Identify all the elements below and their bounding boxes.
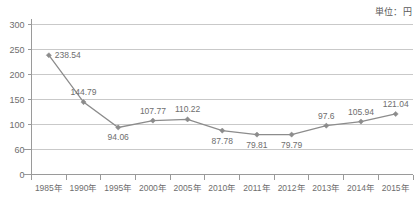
data-point-label: 87.78 (212, 136, 234, 146)
x-axis-tick-label: 2000年 (139, 183, 167, 193)
data-point-label: 79.81 (246, 140, 268, 150)
data-point-marker (150, 118, 155, 123)
data-point-marker (185, 117, 190, 122)
x-axis-tick-label: 2013年 (312, 183, 340, 193)
data-point-label: 94.06 (108, 132, 130, 142)
y-axis-tick-label: 250 (9, 45, 24, 55)
data-point-labels: 238.54144.7994.06107.77110.2287.7879.817… (55, 50, 409, 149)
x-axis-tick-label: 1990年 (70, 183, 98, 193)
x-axis-tick-label: 1985年 (35, 183, 63, 193)
data-point-label: 110.22 (175, 104, 201, 114)
data-point-marker (324, 123, 329, 128)
x-axis-tick-label: 1995年 (104, 183, 132, 193)
x-axis-tick-label: 2012年 (278, 183, 306, 193)
data-point-marker (358, 119, 363, 124)
y-axis-tick-label: 200 (9, 70, 24, 80)
x-axis-ticks (32, 175, 414, 180)
x-axis-tick-label: 2014年 (347, 183, 375, 193)
data-point-label: 97.6 (318, 111, 335, 121)
series-line (49, 55, 396, 134)
y-axis-tick-label: 150 (9, 95, 24, 105)
data-point-label: 107.77 (140, 106, 166, 116)
x-axis-tick-label: 2010年 (208, 183, 236, 193)
data-point-marker (393, 111, 398, 116)
data-point-label: 79.79 (281, 140, 303, 150)
data-point-marker (220, 128, 225, 133)
y-axis-tick-label: 100 (9, 120, 24, 130)
data-point-label: 238.54 (55, 50, 81, 60)
line-chart: 単位：円 3002502001501006001985年1990年1995年20… (0, 0, 418, 202)
x-axis-labels: 1985年1990年1995年2000年2005年2010年2011年2012年… (35, 183, 410, 193)
x-axis-tick-label: 2011年 (243, 183, 270, 193)
chart-plot-area: 3002502001501006001985年1990年1995年2000年20… (0, 0, 418, 202)
y-axis-tick-label: 300 (9, 20, 24, 30)
data-point-label: 144.79 (71, 87, 97, 97)
data-point-label: 121.04 (383, 99, 409, 109)
data-point-label: 105.94 (348, 107, 374, 117)
x-axis-tick-label: 2005年 (174, 183, 202, 193)
data-point-marker (289, 132, 294, 137)
y-gridlines: 300250200150100600 (9, 20, 413, 180)
data-point-marker (254, 132, 259, 137)
x-axis-tick-label: 2015年 (382, 183, 410, 193)
